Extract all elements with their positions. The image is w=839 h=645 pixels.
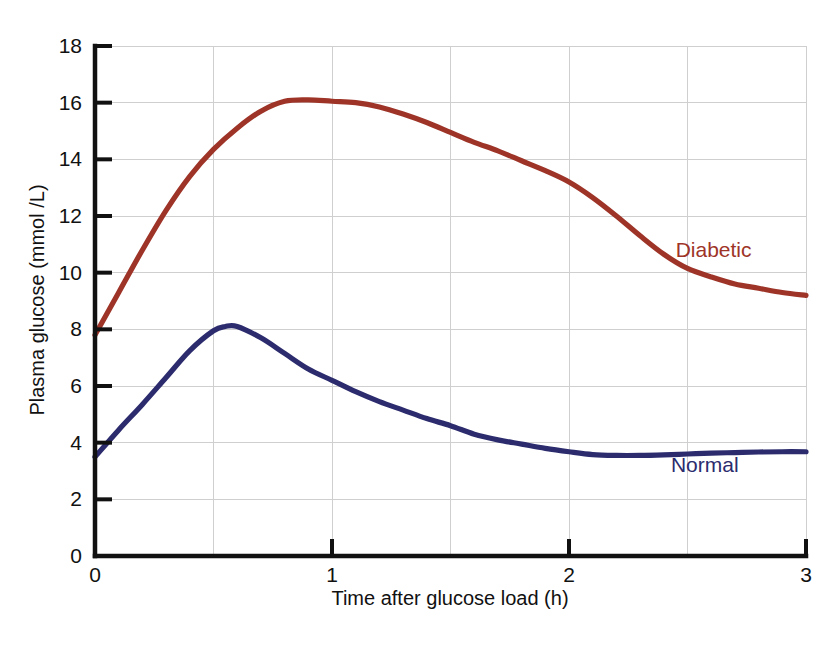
- x-tick-label: 3: [800, 563, 812, 586]
- y-axis-title: Plasma glucose (mmol /L): [26, 184, 48, 415]
- chart-container: 0246810121416180123 DiabeticNormal Time …: [0, 0, 839, 645]
- y-tick-label: 18: [59, 34, 82, 57]
- y-tick-label: 8: [70, 317, 82, 340]
- x-tick-label: 0: [89, 563, 101, 586]
- y-tick-label: 12: [59, 204, 82, 227]
- y-tick-label: 14: [59, 147, 83, 170]
- series-label-diabetic: Diabetic: [676, 238, 752, 261]
- chart-background: [0, 0, 839, 645]
- y-tick-label: 2: [70, 487, 82, 510]
- y-tick-label: 10: [59, 261, 82, 284]
- x-tick-label: 1: [326, 563, 338, 586]
- x-tick-label: 2: [563, 563, 575, 586]
- y-tick-label: 6: [70, 374, 82, 397]
- y-tick-label: 16: [59, 91, 82, 114]
- plasma-glucose-line-chart: 0246810121416180123 DiabeticNormal Time …: [0, 0, 839, 645]
- series-label-normal: Normal: [671, 453, 739, 476]
- y-tick-label: 4: [70, 431, 82, 454]
- x-axis-title: Time after glucose load (h): [331, 587, 568, 609]
- y-tick-label: 0: [70, 544, 82, 567]
